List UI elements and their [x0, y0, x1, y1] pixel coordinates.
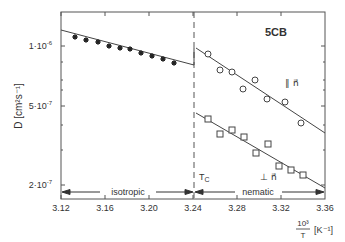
x-ticks [61, 12, 281, 199]
x-tick-3.16: 3.16 [96, 203, 114, 213]
x-label-unit: [K⁻¹] [314, 225, 333, 235]
nematic-label: nematic [242, 187, 274, 197]
x-tick-labels: 3.12 3.16 3.20 3.24 3.28 3.32 3.36 [52, 203, 334, 213]
diffusion-chart: 3.12 3.16 3.20 3.24 3.28 3.32 3.36 1·10-… [0, 0, 345, 242]
y-ticks [61, 46, 325, 185]
isotropic-markers [72, 34, 177, 66]
x-tick-3.36: 3.36 [316, 203, 334, 213]
y-tick-1e-6: 1·10-6 [29, 40, 53, 51]
parallel-label: ∥ n⃗ [285, 78, 299, 88]
arrow-right-icon [185, 190, 193, 195]
perpendicular-markers [205, 116, 306, 178]
arrow-left-icon [195, 190, 203, 195]
y-tick-labels: 1·10-6 5·10-7 2·10-7 [29, 40, 53, 190]
x-label-denominator: T [301, 231, 306, 240]
x-tick-3.24: 3.24 [184, 203, 202, 213]
x-tick-3.32: 3.32 [272, 203, 290, 213]
parallel-fit-line [196, 48, 325, 133]
isotropic-fit-line [61, 30, 194, 65]
parallel-markers [205, 51, 304, 126]
y-axis-label: D [cm²s⁻¹] [13, 83, 24, 129]
chart-title: 5CB [265, 26, 287, 38]
isotropic-label: isotropic [111, 187, 145, 197]
arrow-left-icon [62, 190, 70, 195]
x-tick-3.12: 3.12 [52, 203, 70, 213]
y-tick-2e-7: 2·10-7 [29, 179, 53, 190]
x-tick-3.28: 3.28 [228, 203, 246, 213]
arrow-right-icon [316, 190, 324, 195]
perpendicular-label: ⊥ n⃗ [260, 172, 277, 182]
x-label-numerator: 10³ [297, 219, 309, 228]
y-tick-5e-7: 5·10-7 [29, 100, 53, 111]
x-axis-label: 10³ T [K⁻¹] [296, 219, 333, 240]
x-tick-3.20: 3.20 [140, 203, 158, 213]
tc-label: TC [199, 172, 210, 183]
